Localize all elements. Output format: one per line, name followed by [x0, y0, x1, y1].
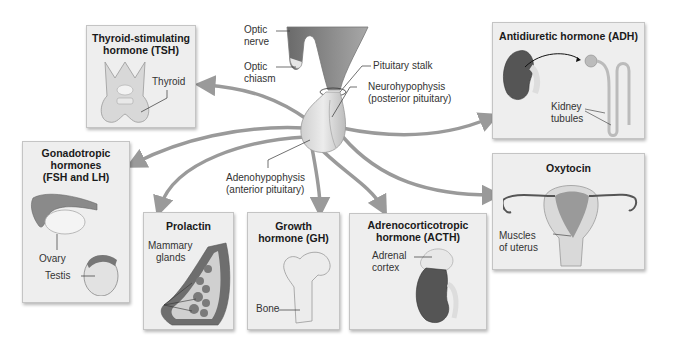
acth-title-line1: Adrenocorticotropic — [350, 219, 486, 231]
mammary-glands-label: Mammary glands — [148, 240, 192, 264]
gh-title-line2: hormone (GH) — [248, 232, 339, 244]
oxytocin-box: Oxytocin Muscles of uterus — [492, 153, 645, 270]
optic-nerve-label: Optic nerve — [244, 24, 269, 48]
ovary-testis-illustration — [27, 186, 127, 296]
uterus-line2: of uterus — [499, 242, 538, 254]
neurohypophysis-label: Neurohypophysis (posterior pituitary) — [368, 81, 451, 105]
uterus-illustration — [503, 182, 639, 268]
gonadotropic-title: Gonadotropic hormones (FSH and LH) — [23, 147, 129, 183]
gonadotropic-title-line2: hormones — [23, 159, 129, 171]
optic-chiasm-line2: chiasm — [244, 73, 276, 85]
adrenal-line2: cortex — [372, 262, 406, 274]
arrow-to-adh — [342, 118, 490, 135]
bone-leader-line — [278, 307, 308, 313]
adrenal-line1: Adrenal — [372, 250, 406, 262]
testis-label: Testis — [45, 270, 71, 282]
oxytocin-title: Oxytocin — [493, 162, 644, 174]
pituitary-stalk-label: Pituitary stalk — [373, 60, 432, 72]
mammary-line2: glands — [148, 252, 192, 264]
adrenal-cortex-label: Adrenal cortex — [372, 250, 406, 274]
uterus-line1: Muscles — [499, 230, 538, 242]
gh-box: Growth hormone (GH) Bone — [247, 212, 340, 330]
bone-illustration — [278, 251, 338, 329]
pituitary-illustration — [287, 27, 368, 153]
neurohypophysis-line2: (posterior pituitary) — [368, 93, 451, 105]
tsh-title-line1: Thyroid-stimulating — [87, 32, 195, 44]
acth-title-line2: hormone (ACTH) — [350, 231, 486, 243]
kidney-tubules-line1: Kidney — [551, 101, 583, 113]
optic-nerve-line2: nerve — [244, 36, 269, 48]
bone-label: Bone — [256, 303, 279, 315]
optic-chiasm-label: Optic chiasm — [244, 61, 276, 85]
thyroid-leader-line — [137, 88, 177, 118]
adrenal-leader-line — [414, 254, 438, 260]
tsh-box: Thyroid-stimulating hormone (TSH) Thyroi… — [86, 25, 196, 128]
thyroid-label: Thyroid — [152, 76, 185, 88]
adenohypophysis-line1: Adenohypophysis — [226, 172, 305, 184]
optic-nerve-line1: Optic — [244, 24, 269, 36]
optic-chiasm-line1: Optic — [244, 61, 276, 73]
adh-box: Antidiuretic hormone (ADH) Kidney tubule… — [492, 22, 645, 139]
adenohypophysis-line2: (anterior pituitary) — [226, 184, 305, 196]
arrow-to-gh — [312, 148, 320, 207]
gh-title: Growth hormone (GH) — [248, 220, 339, 244]
adenohypophysis-label: Adenohypophysis (anterior pituitary) — [226, 172, 305, 196]
kidney-tubules-line2: tubules — [551, 113, 583, 125]
prolactin-title: Prolactin — [144, 220, 233, 232]
acth-title: Adrenocorticotropic hormone (ACTH) — [350, 219, 486, 243]
gonadotropic-title-line3: (FSH and LH) — [23, 171, 129, 183]
muscles-of-uterus-label: Muscles of uterus — [499, 230, 538, 254]
tsh-title: Thyroid-stimulating hormone (TSH) — [87, 32, 195, 56]
ovary-label: Ovary — [39, 253, 66, 265]
neurohypophysis-line1: Neurohypophysis — [368, 81, 451, 93]
gonadotropic-box: Gonadotropic hormones (FSH and LH) Ovary… — [22, 141, 130, 303]
gonadotropic-title-line1: Gonadotropic — [23, 147, 129, 159]
kidney-tubules-label: Kidney tubules — [551, 101, 583, 125]
acth-box: Adrenocorticotropic hormone (ACTH) Adren… — [349, 213, 487, 330]
arrow-to-tsh — [205, 85, 308, 120]
prolactin-box: Prolactin Mammary glands — [143, 212, 234, 330]
tsh-title-line2: hormone (TSH) — [87, 44, 195, 56]
arrow-to-acth — [318, 146, 382, 207]
arrow-to-gonadotropic — [135, 128, 304, 163]
gh-title-line1: Growth — [248, 220, 339, 232]
adh-title: Antidiuretic hormone (ADH) — [493, 30, 644, 42]
mammary-line1: Mammary — [148, 240, 192, 252]
adrenal-kidney-illustration — [410, 248, 470, 328]
